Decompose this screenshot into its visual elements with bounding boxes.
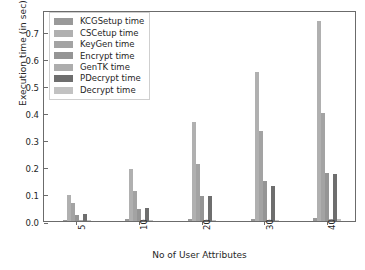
legend-label: PDecrypt time bbox=[80, 74, 141, 83]
y-tick-mark bbox=[44, 223, 48, 224]
y-tick-mark bbox=[44, 33, 48, 34]
legend-label: GenTK time bbox=[80, 63, 130, 72]
legend-item: KeyGen time bbox=[54, 39, 144, 50]
x-tick-text: 10 bbox=[139, 219, 149, 230]
y-tick-label: 0.2 bbox=[25, 164, 44, 174]
x-tick-text: 20 bbox=[202, 219, 212, 230]
x-tick-label: 40 bbox=[327, 221, 338, 231]
y-tick-label: 0.0 bbox=[25, 218, 44, 228]
x-axis-title: No of User Attributes bbox=[43, 250, 356, 260]
y-tick-label: 0.5 bbox=[25, 83, 44, 93]
y-tick-label: 0.6 bbox=[25, 56, 44, 66]
legend-swatch bbox=[54, 18, 73, 25]
y-tick-label: 0.4 bbox=[25, 110, 44, 120]
bar bbox=[208, 196, 212, 221]
bar bbox=[200, 196, 204, 221]
legend-item: KCGSetup time bbox=[54, 16, 144, 27]
legend-swatch bbox=[54, 75, 73, 82]
legend-item: Decrypt time bbox=[54, 84, 144, 95]
legend-item: PDecrypt time bbox=[54, 73, 144, 84]
y-tick-mark bbox=[44, 141, 48, 142]
y-tick-mark bbox=[44, 168, 48, 169]
x-tick-label: 5 bbox=[77, 221, 82, 231]
legend-label: Decrypt time bbox=[80, 86, 136, 95]
legend-item: GenTK time bbox=[54, 62, 144, 73]
bar bbox=[333, 174, 337, 221]
x-tick-text: 40 bbox=[327, 219, 337, 230]
bar-group bbox=[188, 12, 216, 221]
x-tick-text: 30 bbox=[265, 219, 275, 230]
legend-item: Encrypt time bbox=[54, 50, 144, 61]
legend: KCGSetup timeCSCetup timeKeyGen timeEncr… bbox=[49, 12, 150, 100]
y-tick-mark bbox=[44, 60, 48, 61]
bar-group bbox=[251, 12, 279, 221]
bar bbox=[87, 220, 91, 221]
legend-label: CSCetup time bbox=[80, 29, 139, 38]
bar bbox=[271, 186, 275, 221]
legend-swatch bbox=[54, 30, 73, 37]
y-tick-label: 0.1 bbox=[25, 191, 44, 201]
bar-group bbox=[313, 12, 341, 221]
legend-swatch bbox=[54, 52, 73, 59]
legend-swatch bbox=[54, 87, 73, 94]
legend-swatch bbox=[54, 41, 73, 48]
x-tick-label: 20 bbox=[202, 221, 213, 231]
legend-label: KeyGen time bbox=[80, 40, 135, 49]
y-tick-label: 0.3 bbox=[25, 137, 44, 147]
legend-label: Encrypt time bbox=[80, 52, 135, 61]
figure: Execution time (in sec) 0.00.10.20.30.40… bbox=[0, 0, 365, 270]
legend-item: CSCetup time bbox=[54, 27, 144, 38]
y-tick-label: 0.7 bbox=[25, 29, 44, 39]
x-tick-label: 10 bbox=[139, 221, 150, 231]
legend-swatch bbox=[54, 64, 73, 71]
y-tick-mark bbox=[44, 114, 48, 115]
y-tick-mark bbox=[44, 195, 48, 196]
bar bbox=[325, 173, 329, 221]
x-tick-label: 30 bbox=[265, 221, 276, 231]
x-tick-text: 5 bbox=[77, 225, 87, 230]
bar bbox=[263, 181, 267, 221]
y-tick-mark bbox=[44, 87, 48, 88]
legend-label: KCGSetup time bbox=[80, 17, 144, 26]
